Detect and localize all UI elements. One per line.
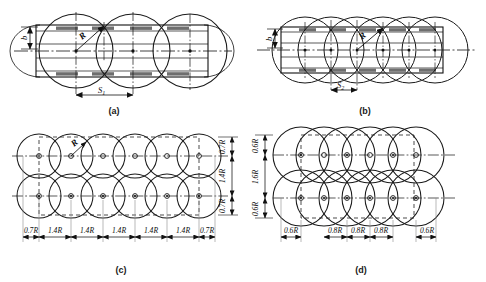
dim-h-1: 0.8R — [328, 226, 342, 235]
dim-v-0: 0.6R — [251, 139, 260, 153]
radius-label-a: R — [76, 30, 88, 42]
s2-label: S2 — [337, 80, 344, 91]
panel-caption-c: (c) — [116, 265, 127, 275]
nozzle-dot — [102, 195, 104, 197]
hatch-segments-top — [299, 28, 436, 31]
coverage-circles — [273, 127, 444, 226]
panel-d: 0.6R 0.8R 0.8R 0.8R 0.6R 0.6R 1.6R 0.6R … — [243, 120, 486, 282]
dim-v-1: 1.4R — [218, 169, 227, 183]
nozzle-dot — [369, 197, 371, 199]
s1-label: S1 — [98, 85, 105, 96]
radius-label-c: R — [68, 137, 80, 149]
nozzle-dot — [392, 154, 394, 156]
dim-v-1: 1.6R — [251, 170, 260, 184]
dim-h-3: 1.4R — [112, 226, 126, 235]
panel-caption-a: (a) — [109, 106, 120, 116]
b-label-a: b — [19, 36, 29, 40]
dim-h-4: 0.6R — [420, 226, 434, 235]
nozzle-dot — [134, 195, 136, 197]
dim-h-0: 0.7R — [24, 226, 38, 235]
dim-v-2: 0.7R — [218, 199, 227, 213]
panel-a: R b S1 (a) — [0, 0, 243, 120]
panel-caption-d: (d) — [355, 265, 367, 275]
nozzle-dot — [166, 195, 168, 197]
row-centerlines — [12, 156, 228, 196]
nozzle-dot — [392, 197, 394, 199]
panel-caption-b: (b) — [359, 106, 371, 116]
nozzle-dot — [323, 197, 325, 199]
dim-h-2: 0.8R — [351, 226, 365, 235]
dim-v-0: 0.7R — [218, 140, 227, 154]
nozzle-dots — [300, 154, 417, 199]
nozzle-dot — [198, 195, 200, 197]
dim-v-2: 0.6R — [251, 202, 260, 216]
figure-root: R b S1 (a) — [0, 0, 486, 282]
row-centerlines — [273, 155, 455, 198]
dim-h-4: 1.4R — [144, 226, 158, 235]
dim-h-0: 0.6R — [284, 226, 298, 235]
b-label-b: b — [264, 37, 274, 41]
nozzle-dot — [300, 197, 302, 199]
nozzle-dot — [346, 197, 348, 199]
hatch-segments-bottom — [299, 69, 436, 72]
nozzle-symbols — [299, 153, 419, 201]
dim-h-5: 1.4R — [176, 226, 190, 235]
dim-h-1: 1.4R — [48, 226, 62, 235]
nozzle-dot — [415, 197, 417, 199]
nozzle-dot — [38, 195, 40, 197]
dim-h-2: 1.4R — [80, 226, 94, 235]
nozzle-dot — [70, 195, 72, 197]
panel-c: R 0.7R 1.4R 1.4R 1.4R 1.4R 1.4R — [0, 120, 243, 282]
dim-h-3: 0.8R — [374, 226, 388, 235]
panel-b: R b S2 (b) — [243, 0, 486, 120]
dim-h-6: 0.7R — [200, 226, 214, 235]
extension-lines — [281, 198, 436, 242]
nozzle-dot — [300, 154, 302, 156]
nozzle-dot — [346, 154, 348, 156]
coverage-circles — [17, 134, 221, 218]
